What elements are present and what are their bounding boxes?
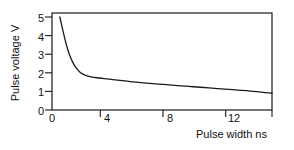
data-series-line xyxy=(60,17,272,93)
chart-figure: Pulse voltage V Pulse width ns 0 1 2 3 4… xyxy=(0,0,294,150)
x-tick-marks xyxy=(100,110,272,117)
plot-area xyxy=(0,0,294,150)
y-tick-marks xyxy=(45,17,52,110)
plot-frame xyxy=(52,13,272,110)
